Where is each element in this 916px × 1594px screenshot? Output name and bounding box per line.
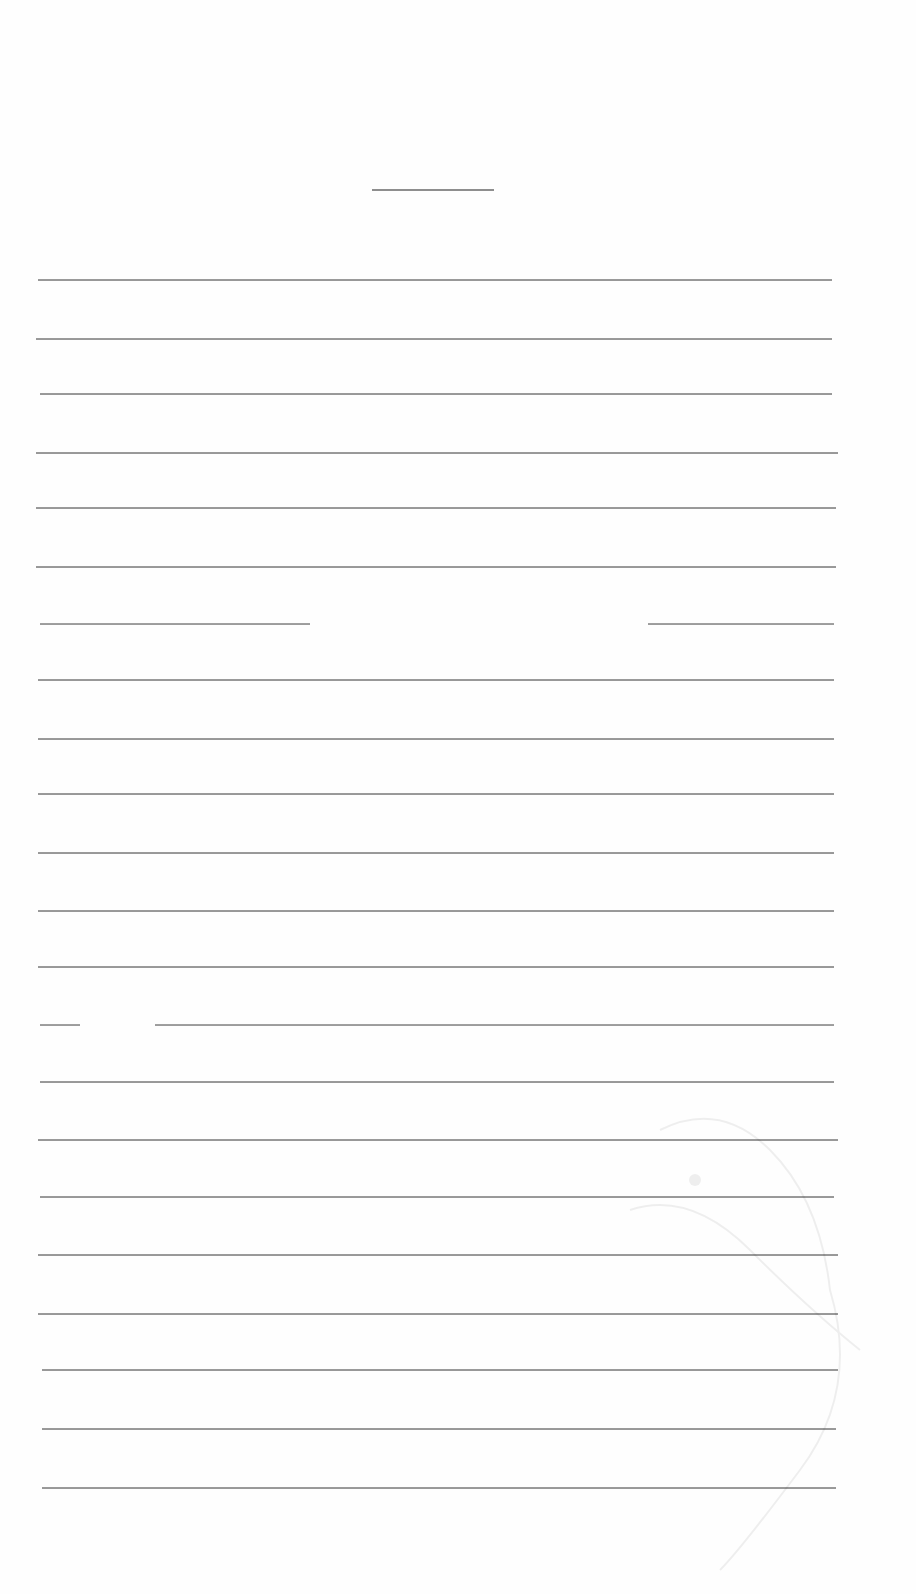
writing-line (38, 793, 834, 795)
writing-line (40, 393, 832, 395)
writing-line (38, 679, 834, 681)
writing-line (40, 1024, 80, 1026)
writing-line (40, 1081, 834, 1083)
writing-line (648, 623, 834, 625)
writing-line (38, 1313, 838, 1315)
writing-line (38, 910, 834, 912)
writing-line (36, 338, 832, 340)
writing-line (38, 738, 834, 740)
writing-line (38, 852, 834, 854)
writing-line (40, 623, 310, 625)
writing-line (155, 1024, 834, 1026)
writing-line (42, 1428, 836, 1430)
writing-line (40, 1196, 834, 1198)
title-line (372, 189, 494, 191)
lined-page (0, 0, 916, 1594)
writing-line (38, 1139, 838, 1141)
writing-line (36, 566, 836, 568)
writing-line (42, 1487, 836, 1489)
writing-line (36, 452, 838, 454)
bleed-through-mark (600, 1090, 900, 1590)
writing-line (38, 966, 834, 968)
writing-line (38, 279, 832, 281)
writing-line (38, 1254, 838, 1256)
writing-line (36, 507, 836, 509)
writing-line (42, 1369, 838, 1371)
